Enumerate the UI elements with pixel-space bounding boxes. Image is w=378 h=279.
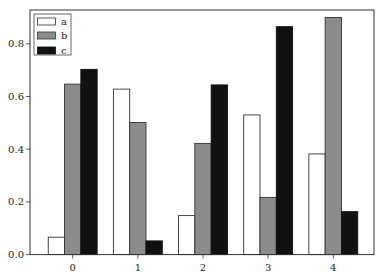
bar-c-3 (276, 27, 292, 255)
y-tick-label: 0.4 (8, 144, 24, 155)
x-tick-label: 0 (70, 262, 76, 273)
bar-a-1 (113, 89, 129, 254)
y-tick-label: 0.2 (8, 196, 24, 207)
x-tick-label: 3 (265, 262, 271, 273)
y-tick-label: 0.0 (8, 249, 24, 260)
legend: a b c (34, 14, 71, 56)
x-tick-label: 2 (200, 262, 206, 273)
bar-c-0 (81, 69, 97, 254)
bar-b-0 (65, 84, 81, 254)
bar-b-4 (325, 17, 341, 254)
bar-b-3 (260, 197, 276, 254)
legend-label-c: c (61, 45, 67, 56)
bar-c-4 (341, 212, 357, 255)
x-axis: 01234 (70, 255, 337, 273)
bar-a-4 (309, 154, 325, 255)
x-tick-label: 4 (330, 262, 336, 273)
bar-b-2 (195, 143, 211, 254)
x-tick-label: 1 (135, 262, 141, 273)
bar-b-1 (130, 123, 146, 255)
bar-a-2 (179, 216, 195, 255)
legend-label-b: b (61, 30, 67, 41)
legend-swatch-b (38, 32, 56, 39)
bar-chart: 0.00.20.40.60.8 01234 a b c (0, 0, 378, 279)
legend-swatch-a (38, 18, 56, 25)
bar-a-3 (244, 115, 260, 255)
legend-label-a: a (61, 16, 67, 27)
bar-a-0 (48, 237, 64, 254)
legend-swatch-c (38, 47, 56, 54)
y-tick-label: 0.8 (8, 38, 24, 49)
bar-c-1 (146, 241, 162, 255)
y-tick-label: 0.6 (8, 91, 24, 102)
bar-c-2 (211, 85, 227, 255)
y-axis: 0.00.20.40.60.8 (8, 38, 30, 260)
bars-layer (48, 17, 358, 254)
